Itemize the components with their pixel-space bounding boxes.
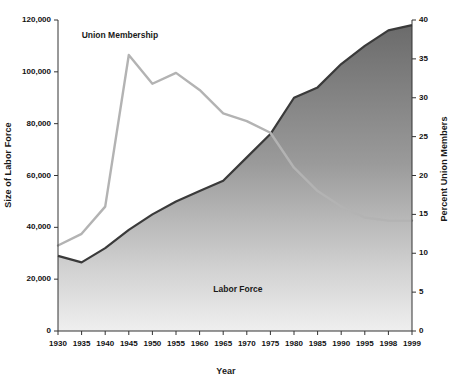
y-axis-left-tick-label: 20,000: [27, 274, 51, 283]
chart-container: Size of Labor Force Percent Union Member…: [0, 0, 452, 378]
y-axis-right-tick-label: 25: [419, 132, 428, 141]
y-axis-right-tick-label: 30: [419, 93, 428, 102]
y-axis-left-tick-label: 60,000: [27, 171, 51, 180]
y-axis-right-tick-label: 40: [419, 15, 428, 24]
y-axis-right-tick-label: 35: [419, 54, 428, 63]
y-axis-left-tick-label: 40,000: [27, 222, 51, 231]
y-axis-right-tick-label: 5: [419, 287, 423, 296]
union-membership-label: Union Membership: [70, 30, 170, 40]
labor-force-label: Labor Force: [188, 284, 288, 294]
y-axis-left-tick-label: 80,000: [27, 119, 51, 128]
y-axis-right-tick-label: 20: [419, 171, 428, 180]
y-axis-left-tick-label: 120,000: [22, 15, 51, 24]
y-axis-right-tick-label: 10: [419, 248, 428, 257]
y-axis-left-tick-label: 0: [47, 326, 51, 335]
y-axis-left-tick-label: 100,000: [22, 67, 51, 76]
x-axis-tick-label: 1999: [396, 339, 428, 348]
plot-area: [0, 0, 452, 378]
y-axis-right-tick-label: 15: [419, 209, 428, 218]
y-axis-right-tick-label: 0: [419, 326, 423, 335]
